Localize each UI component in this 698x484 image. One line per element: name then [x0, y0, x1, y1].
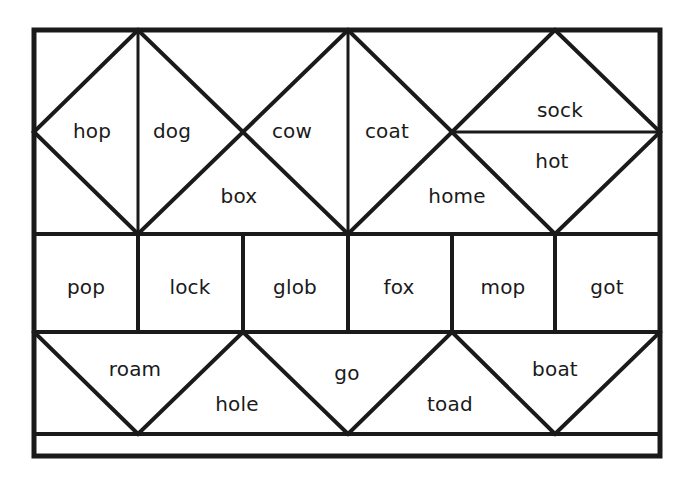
word-cell-hot: hot [535, 149, 568, 173]
word-cell-mop: mop [480, 275, 525, 299]
word-cell-roam: roam [109, 357, 162, 381]
word-cell-coat: coat [365, 119, 409, 143]
word-cell-boat: boat [532, 357, 578, 381]
word-cell-toad: toad [427, 392, 473, 416]
word-cell-go: go [334, 361, 359, 385]
word-cell-got: got [590, 275, 623, 299]
word-cell-home: home [428, 184, 486, 208]
word-cell-cow: cow [272, 119, 312, 143]
word-cell-glob: glob [273, 275, 317, 299]
word-cell-box: box [221, 184, 258, 208]
word-cell-hop: hop [73, 119, 111, 143]
word-cell-dog: dog [153, 119, 191, 143]
worksheet-grid-svg: hop dog box cow coat home sock hot pop l… [0, 0, 698, 484]
worksheet-canvas: hop dog box cow coat home sock hot pop l… [0, 0, 698, 484]
word-cell-sock: sock [537, 98, 583, 122]
word-cell-fox: fox [383, 275, 414, 299]
word-cell-lock: lock [169, 275, 210, 299]
word-cell-hole: hole [215, 392, 259, 416]
word-cell-pop: pop [67, 275, 105, 299]
